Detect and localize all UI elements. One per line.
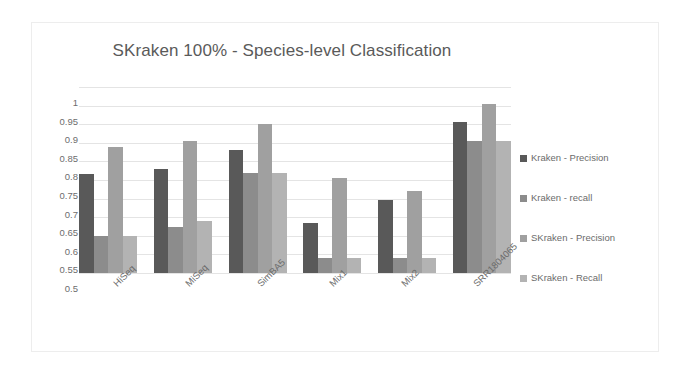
y-axis-tick-label: 0.85 <box>60 152 79 163</box>
bar <box>318 258 333 273</box>
legend-item[interactable]: SKraken - Recall <box>520 258 655 298</box>
legend-item[interactable]: Kraken - Precision <box>520 138 655 178</box>
bar-group-miseq <box>154 87 212 273</box>
legend-item-label: Kraken - recall <box>531 193 592 203</box>
bar <box>482 104 497 273</box>
chart-container: SKraken 100% - Species-level Classificat… <box>31 22 659 352</box>
legend-item-label: Kraken - Precision <box>531 153 609 163</box>
bar-group-mix2 <box>378 87 436 273</box>
legend-swatch-icon <box>520 195 527 202</box>
bar-series-container <box>79 87 511 273</box>
y-axis-tick-label: 0.7 <box>65 208 78 219</box>
bar <box>154 169 169 273</box>
legend-swatch-icon <box>520 235 527 242</box>
bar <box>229 150 244 273</box>
bar <box>79 174 94 273</box>
legend-item-label: SKraken - Recall <box>531 273 602 283</box>
legend-swatch-icon <box>520 275 527 282</box>
gridline <box>79 273 511 274</box>
y-axis: 10.950.90.850.80.750.70.650.60.550.5 <box>40 80 78 280</box>
y-axis-tick-label: 1 <box>73 97 78 108</box>
y-axis-tick-label: 0.75 <box>60 190 79 201</box>
bar <box>108 147 123 273</box>
bar-group-hiseq <box>79 87 137 273</box>
bar <box>168 227 183 274</box>
y-axis-tick-label: 0.95 <box>60 115 79 126</box>
legend-item[interactable]: Kraken - recall <box>520 178 655 218</box>
bar <box>258 124 273 273</box>
y-axis-tick-label: 0.65 <box>60 227 79 238</box>
chart-title: SKraken 100% - Species-level Classificat… <box>32 41 532 61</box>
bar <box>94 236 109 273</box>
bar <box>453 122 468 273</box>
bar-group-simba5 <box>229 87 287 273</box>
plot-area <box>79 87 511 273</box>
y-axis-tick-label: 0.8 <box>65 171 78 182</box>
legend-item-label: SKraken - Precision <box>531 233 615 243</box>
y-axis-tick-label: 0.55 <box>60 264 79 275</box>
y-axis-tick-label: 0.6 <box>65 245 78 256</box>
bar <box>393 258 408 273</box>
bar <box>347 258 362 273</box>
bar <box>467 141 482 273</box>
bar <box>243 173 258 273</box>
bar <box>303 223 318 273</box>
bar-group-srr1804065 <box>453 87 511 273</box>
chart-legend: Kraken - PrecisionKraken - recallSKraken… <box>520 138 655 298</box>
x-axis: HiSeqMiSeqSimBA5Mix1Mix2SRR1804065 <box>79 275 511 345</box>
legend-item[interactable]: SKraken - Precision <box>520 218 655 258</box>
y-axis-tick-label: 0.9 <box>65 134 78 145</box>
bar-group-mix1 <box>303 87 361 273</box>
y-axis-tick-label: 0.5 <box>65 283 78 294</box>
bar <box>332 178 347 273</box>
bar <box>407 191 422 273</box>
bar <box>378 200 393 273</box>
bar <box>183 141 198 273</box>
bar <box>422 258 437 273</box>
legend-swatch-icon <box>520 155 527 162</box>
